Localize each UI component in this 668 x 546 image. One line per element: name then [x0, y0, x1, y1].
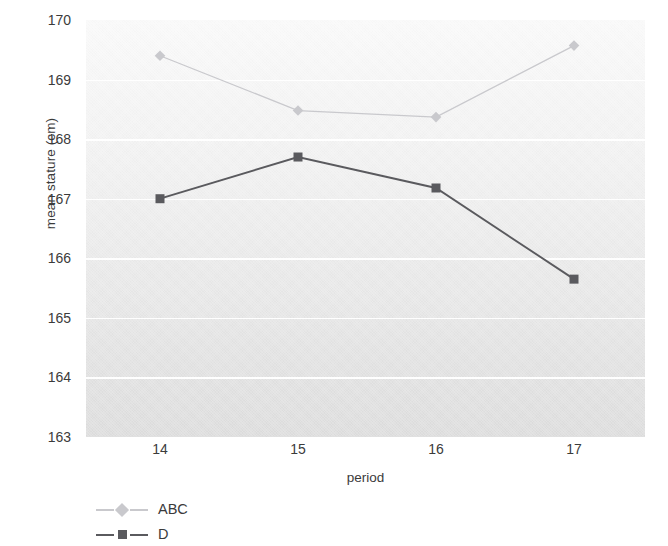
x-axis-tick-label: 16 — [406, 442, 466, 456]
data-point-marker — [570, 275, 579, 284]
series-line — [160, 46, 574, 117]
x-axis-tick-label: 17 — [544, 442, 604, 456]
data-point-marker — [294, 153, 303, 162]
y-axis-tick-labels: 170169168167166165164163 — [0, 0, 80, 546]
chart-figure: mean stature (cm) 1701691681671661651641… — [0, 0, 668, 546]
x-axis-tick-labels: 14151617 — [86, 442, 645, 464]
x-axis-title: period — [86, 470, 645, 485]
y-axis-tick-label: 170 — [11, 13, 71, 27]
series-abc — [155, 40, 580, 122]
legend-key-diamond-icon — [96, 501, 148, 519]
x-axis-tick-label: 15 — [268, 442, 328, 456]
series-line — [160, 157, 574, 279]
legend-item-abc[interactable]: ABC — [96, 497, 356, 522]
y-axis-tick-label: 169 — [11, 73, 71, 87]
series-d — [156, 153, 579, 284]
legend-label: ABC — [158, 502, 188, 517]
y-axis-tick-label: 168 — [11, 132, 71, 146]
y-axis-tick-label: 163 — [11, 430, 71, 444]
data-point-marker — [293, 105, 304, 116]
plot-area — [86, 20, 645, 437]
y-axis-tick-label: 166 — [11, 251, 71, 265]
y-axis-tick-label: 164 — [11, 370, 71, 384]
data-point-marker — [431, 112, 442, 123]
data-point-marker — [569, 40, 580, 51]
legend-item-d[interactable]: D — [96, 522, 356, 546]
y-axis-tick-label: 167 — [11, 192, 71, 206]
x-axis-tick-label: 14 — [130, 442, 190, 456]
series-plot — [86, 20, 645, 437]
data-point-marker — [155, 50, 166, 61]
legend-key-square-icon — [96, 526, 148, 544]
chart-legend: ABCD — [96, 497, 356, 546]
legend-label: D — [158, 527, 168, 542]
legend-marker-square-icon — [118, 530, 127, 539]
y-axis-tick-label: 165 — [11, 311, 71, 325]
data-point-marker — [156, 194, 165, 203]
data-point-marker — [432, 183, 441, 192]
